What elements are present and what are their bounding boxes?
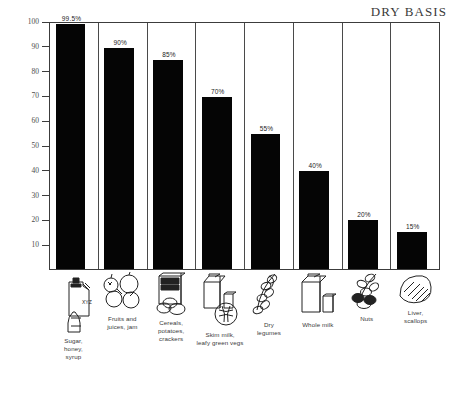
syrup-bottle-and-sugar-bag-icon: XYZ — [49, 272, 97, 334]
y-tick-label: 80 — [32, 67, 40, 76]
bar-column-8[interactable]: 15% — [391, 23, 439, 269]
category-caption: Nuts — [360, 315, 373, 323]
legend-item-3: Cereals, potatoes, crackers — [147, 272, 196, 394]
cereal-box-and-potatoes-icon — [151, 272, 191, 316]
bar-value-label: 40% — [299, 162, 332, 169]
bar[interactable] — [299, 171, 329, 269]
bar-value-label: 55% — [250, 125, 283, 132]
bar-column-3[interactable]: 85% — [148, 23, 197, 269]
y-tick-label: 100 — [28, 17, 39, 26]
y-tick-mark — [42, 96, 49, 97]
bar-column-2[interactable]: 90% — [99, 23, 148, 269]
chart-figure: DRY BASIS PERCENT 102030405060708090100 … — [0, 0, 457, 394]
svg-text:XYZ: XYZ — [82, 299, 92, 305]
y-tick-label: 60 — [32, 116, 40, 125]
y-tick-mark — [42, 46, 49, 47]
y-tick-label: 70 — [32, 91, 40, 100]
legend-item-4: Skim milk, leafy green vegs — [196, 272, 245, 394]
bar[interactable] — [202, 97, 232, 269]
legend-item-1: XYZSugar, honey, syrup — [49, 272, 98, 394]
bar-column-1[interactable]: 99.5% — [50, 23, 99, 269]
bar-value-label: 90% — [104, 39, 137, 46]
bar-value-label: 70% — [201, 88, 234, 95]
y-axis-ticks: 102030405060708090100 — [0, 22, 49, 270]
y-tick-mark — [42, 146, 49, 147]
category-caption: Dry legumes — [257, 321, 281, 337]
y-tick-label: 50 — [32, 141, 40, 150]
bar-column-5[interactable]: 55% — [245, 23, 294, 269]
bar[interactable] — [397, 232, 427, 269]
legend-item-8: Liver, scallops — [391, 272, 440, 394]
bar[interactable] — [104, 48, 134, 269]
category-caption: Fruits and juices, jam — [107, 315, 137, 331]
milk-carton-and-greens-icon — [198, 272, 242, 328]
y-tick-label: 10 — [32, 240, 40, 249]
y-tick-label: 90 — [32, 42, 40, 51]
plot-area: 99.5%90%85%70%55%40%20%15% — [49, 22, 440, 270]
category-caption: Cereals, potatoes, crackers — [158, 319, 184, 344]
bar-column-7[interactable]: 20% — [343, 23, 392, 269]
category-icon-strip: XYZSugar, honey, syrupFruits and juices,… — [49, 272, 440, 394]
legend-item-2: Fruits and juices, jam — [98, 272, 147, 394]
category-caption: Sugar, honey, syrup — [64, 337, 83, 362]
chart-title: DRY BASIS — [371, 4, 447, 20]
legumes-icon — [251, 272, 287, 318]
milk-carton-and-glass-icon — [296, 272, 340, 318]
bar-value-label: 15% — [396, 223, 429, 230]
y-tick-mark — [42, 195, 49, 196]
bar[interactable] — [56, 24, 86, 269]
y-tick-mark — [42, 121, 49, 122]
fruits-icon — [100, 272, 144, 312]
category-caption: Skim milk, leafy green vegs — [197, 331, 244, 347]
legend-item-7: Nuts — [342, 272, 391, 394]
y-tick-mark — [42, 245, 49, 246]
y-tick-mark — [42, 22, 49, 23]
y-tick-mark — [42, 220, 49, 221]
bar-value-label: 85% — [152, 51, 185, 58]
bar[interactable] — [153, 60, 183, 269]
bar-value-label: 20% — [347, 211, 380, 218]
bar-column-4[interactable]: 70% — [196, 23, 245, 269]
bar-columns: 99.5%90%85%70%55%40%20%15% — [50, 23, 439, 269]
bar-column-6[interactable]: 40% — [294, 23, 343, 269]
category-caption: Liver, scallops — [404, 309, 427, 325]
y-tick-mark — [42, 71, 49, 72]
category-caption: Whole milk — [302, 321, 333, 329]
y-tick-label: 40 — [32, 166, 40, 175]
nuts-icon — [348, 272, 386, 312]
bar[interactable] — [251, 134, 281, 269]
y-tick-mark — [42, 170, 49, 171]
liver-scallop-icon — [396, 272, 436, 306]
bar-value-label: 99.5% — [55, 15, 88, 22]
y-tick-label: 30 — [32, 191, 40, 200]
y-tick-label: 20 — [32, 215, 40, 224]
legend-item-5: Dry legumes — [245, 272, 294, 394]
bar[interactable] — [348, 220, 378, 269]
legend-item-6: Whole milk — [293, 272, 342, 394]
